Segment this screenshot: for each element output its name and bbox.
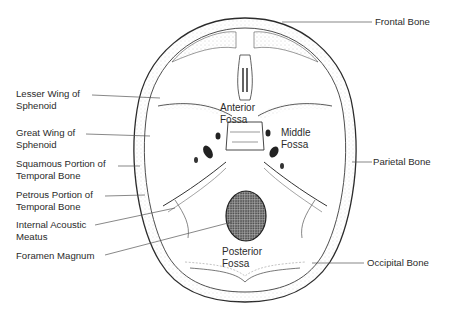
label-parietal-bone: Parietal Bone: [373, 156, 431, 168]
foramen-magnum: [226, 191, 266, 241]
label-middle-fossa: MiddleFossa: [281, 127, 310, 151]
label-anterior-fossa: AnteriorFossa: [220, 102, 255, 126]
label-petrous-portion-of-temporal-bone: Petrous Portion ofTemporal Bone: [16, 189, 93, 212]
petrous-ridge-left: [163, 162, 226, 206]
label-frontal-bone: Frontal Bone: [375, 16, 430, 28]
label-foramen-magnum: Foramen Magnum: [16, 250, 94, 262]
label-occipital-bone: Occipital Bone: [367, 257, 429, 269]
label-posterior-fossa: PosteriorFossa: [222, 246, 262, 270]
leader-foramen-magnum: [105, 222, 232, 255]
label-squamous-portion-of-temporal-bone: Squamous Portion ofTemporal Bone: [16, 158, 106, 181]
petrous-ridge-right: [264, 162, 327, 206]
label-lesser-wing-of-sphenoid: Lesser Wing ofSphenoid: [16, 88, 80, 111]
sella-turcica: [226, 122, 264, 150]
label-internal-acoustic-meatus: Internal AcousticMeatus: [16, 219, 86, 242]
crista-galli: [238, 55, 253, 100]
skull-base-diagram: Lesser Wing ofSphenoid Great Wing ofSphe…: [0, 0, 450, 313]
leader-internal-acoustic: [95, 208, 175, 225]
label-great-wing-of-sphenoid: Great Wing ofSphenoid: [16, 127, 75, 150]
